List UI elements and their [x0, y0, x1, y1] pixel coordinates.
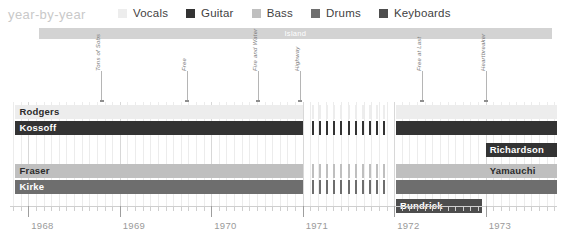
axis-tick-minor	[226, 206, 227, 211]
legend-item-vocals[interactable]: Vocals	[118, 7, 168, 19]
member-bar[interactable]: Yamauchi	[486, 164, 557, 178]
hiatus-dash	[362, 180, 364, 194]
hiatus-dash	[319, 180, 321, 194]
axis-tick-minor	[402, 206, 403, 211]
member-bar[interactable]	[396, 164, 486, 178]
hiatus-dash	[362, 121, 364, 135]
axis-tick-minor	[150, 206, 151, 211]
hiatus-dash	[333, 105, 335, 119]
axis-tick-minor	[371, 206, 372, 211]
axis-tick-minor	[470, 206, 471, 211]
annotation-stem	[101, 71, 102, 101]
hiatus-dash	[326, 121, 328, 135]
hiatus-dash	[362, 105, 364, 119]
legend-item-drums[interactable]: Drums	[311, 7, 361, 19]
hiatus-dash	[383, 121, 385, 135]
hiatus-dash	[333, 180, 335, 194]
annotation-label: Highway	[294, 47, 300, 71]
hiatus-dash	[312, 105, 314, 119]
axis-tick-minor	[158, 206, 159, 211]
axis-tick-major	[211, 206, 212, 217]
hiatus-dash	[369, 121, 371, 135]
member-bar[interactable]	[396, 121, 557, 135]
annotation-stem	[187, 71, 188, 101]
annotation-stem	[300, 71, 301, 101]
hiatus-dash	[348, 105, 350, 119]
axis-tick-minor	[66, 206, 67, 211]
axis-tick-minor	[51, 206, 52, 211]
axis-tick-minor	[249, 206, 250, 211]
hiatus-dash	[340, 180, 342, 194]
axis-tick-minor	[478, 206, 479, 211]
axis-tick-minor	[280, 206, 281, 211]
axis-tick-minor	[432, 206, 433, 211]
hiatus-dash	[312, 180, 314, 194]
axis-year-label: 1968	[31, 220, 53, 231]
axis-tick-minor	[455, 206, 456, 211]
legend-swatch-icon	[379, 9, 388, 18]
axis-tick-minor	[242, 206, 243, 211]
axis-tick-minor	[272, 206, 273, 211]
hiatus-dash	[312, 121, 314, 135]
hiatus-dash	[355, 105, 357, 119]
legend: VocalsGuitarBassDrumsKeyboards	[118, 5, 469, 21]
annotation-label: Fire and Water	[252, 29, 258, 71]
hiatus-dash	[383, 180, 385, 194]
axis-tick-major	[28, 206, 29, 217]
axis-tick-minor	[265, 206, 266, 211]
member-bar[interactable]	[396, 180, 557, 194]
axis-year-label: 1969	[123, 220, 145, 231]
legend-item-bass[interactable]: Bass	[252, 7, 293, 19]
member-bar-hiatus	[312, 105, 391, 119]
axis-tick-minor	[181, 206, 182, 211]
axis-tick-minor	[531, 206, 532, 211]
member-bar[interactable]: Kossoff	[15, 121, 302, 135]
timeline-plot-area: RodgersKossoffRichardsonFraserYamauchiKi…	[10, 102, 557, 210]
member-bar-hiatus	[312, 180, 391, 194]
axis-tick-minor	[82, 206, 83, 211]
axis-tick-minor	[341, 206, 342, 211]
axis-year-label: 1973	[489, 220, 511, 231]
member-bar[interactable]: Kirke	[15, 180, 302, 194]
axis-tick-minor	[318, 206, 319, 211]
annotation-label: Free at Last	[416, 37, 422, 71]
hiatus-dash	[369, 105, 371, 119]
hiatus-dash	[376, 105, 378, 119]
member-bar[interactable]: Rodgers	[15, 105, 302, 119]
member-bar[interactable]: Richardson	[486, 143, 557, 157]
member-bar-label: Fraser	[19, 164, 49, 178]
axis-tick-minor	[364, 206, 365, 211]
axis-tick-minor	[440, 206, 441, 211]
axis-tick-minor	[463, 206, 464, 211]
axis-tick-minor	[539, 206, 540, 211]
axis-tick-minor	[524, 206, 525, 211]
axis-tick-minor	[89, 206, 90, 211]
legend-swatch-icon	[118, 9, 127, 18]
axis-line	[10, 206, 557, 207]
annotation-label: Heartbreaker	[480, 34, 486, 71]
axis-tick-minor	[326, 206, 327, 211]
axis-tick-minor	[44, 206, 45, 211]
annotation-stem	[486, 71, 487, 101]
axis-year-label: 1972	[397, 220, 419, 231]
hiatus-dash	[369, 164, 371, 178]
hiatus-dash	[312, 164, 314, 178]
legend-swatch-icon	[186, 9, 195, 18]
legend-label: Keyboards	[394, 7, 451, 19]
axis-tick-minor	[547, 206, 548, 211]
member-bar[interactable]: Fraser	[15, 164, 302, 178]
legend-swatch-icon	[311, 9, 320, 18]
x-axis: 196819691970197119721973	[10, 206, 557, 244]
axis-tick-major	[303, 206, 304, 217]
hiatus-dash	[340, 164, 342, 178]
member-bar[interactable]	[396, 105, 557, 119]
member-bar-label: Kirke	[19, 180, 44, 194]
hiatus-dash	[319, 105, 321, 119]
axis-tick-minor	[59, 206, 60, 211]
legend-item-keyboards[interactable]: Keyboards	[379, 7, 451, 19]
page-title: year-by-year	[8, 7, 86, 22]
axis-tick-major	[120, 206, 121, 217]
axis-tick-minor	[105, 206, 106, 211]
legend-item-guitar[interactable]: Guitar	[186, 7, 234, 19]
axis-tick-minor	[219, 206, 220, 211]
